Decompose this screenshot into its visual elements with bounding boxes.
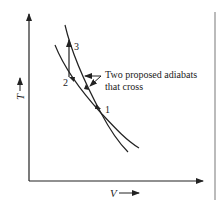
figure-adiabats: T V 1 2 3 Two proposed adiabats that cro…	[0, 0, 219, 203]
y-axis-label: T	[14, 93, 26, 100]
annotation-line-1: Two proposed adiabats	[105, 69, 197, 80]
page-edge-divider	[214, 12, 216, 200]
arrow-icon-to-1	[95, 104, 101, 109]
adiabat-curve-shallow	[55, 45, 139, 148]
point-label-2: 2	[63, 77, 68, 88]
point-label-3: 3	[74, 41, 79, 52]
annotation-leader-2	[90, 76, 101, 86]
x-axis-label: V	[110, 187, 118, 199]
point-label-1: 1	[105, 104, 110, 115]
tv-diagram: T V 1 2 3 Two proposed adiabats that cro…	[0, 0, 219, 203]
annotation-line-2: that cross	[105, 81, 143, 92]
arrow-icon-to-2	[69, 77, 75, 82]
